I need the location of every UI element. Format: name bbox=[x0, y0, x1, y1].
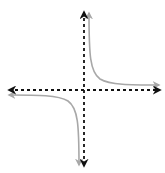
hyperbola-branch-quadrant-3 bbox=[9, 95, 79, 165]
hyperbola-branch-quadrant-1 bbox=[89, 13, 159, 85]
hyperbola-diagram bbox=[0, 0, 165, 173]
